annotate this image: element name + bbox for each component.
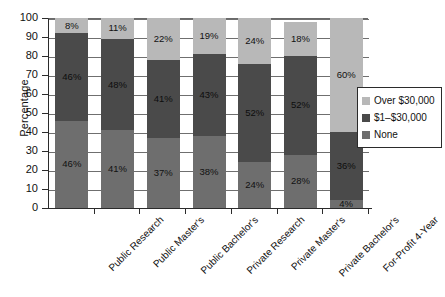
bar-segment-value-label: 37% [154, 168, 173, 178]
legend-swatch-icon [362, 97, 370, 105]
bar-private-bachelor-s[interactable]: 28%52%18% [284, 18, 317, 208]
plot-area: 46%46%8%41%48%11%37%41%22%38%43%19%24%52… [48, 18, 368, 208]
bar-segment-value-label: 24% [245, 36, 264, 46]
bar-segment[interactable]: 24% [238, 18, 271, 64]
stacked-bar-chart: Percentage 0102030405060708090100 46%46%… [0, 0, 445, 297]
chart-legend: Over $30,000$1–$30,000None [357, 87, 442, 148]
bar-segment[interactable]: 22% [147, 18, 180, 60]
x-axis-tick [185, 208, 186, 214]
x-axis-tick [139, 208, 140, 214]
bar-segment-value-label: 8% [65, 21, 79, 31]
bar-segment-value-label: 11% [108, 23, 126, 33]
bar-segment-value-label: 36% [337, 161, 356, 171]
bar-segment-value-label: 52% [291, 100, 310, 110]
bar-segment[interactable]: 18% [284, 22, 317, 56]
bar-segment-value-label: 22% [154, 34, 173, 44]
bar-segment[interactable]: 8% [55, 18, 88, 33]
y-axis-tick-label: 30 [8, 145, 38, 156]
y-axis-tick-label: 80 [8, 50, 38, 61]
bar-segment[interactable]: 41% [101, 130, 134, 208]
y-axis-tick-label: 100 [8, 12, 38, 23]
bar-segment-value-label: 19% [199, 31, 218, 41]
legend-label: $1–$30,000 [374, 112, 427, 123]
bar-segment-value-label: 41% [154, 94, 173, 104]
bar-segment-value-label: 48% [108, 80, 127, 90]
bar-segment[interactable]: 38% [193, 136, 226, 208]
x-axis-line [48, 208, 372, 209]
bar-segment-value-label: 46% [62, 159, 81, 169]
bar-segment[interactable]: 41% [147, 60, 180, 138]
bar-segment-value-label: 41% [108, 164, 127, 174]
x-axis-tick [231, 208, 232, 214]
x-axis-tick [94, 208, 95, 214]
bar-segment-value-label: 28% [291, 176, 310, 186]
bar-public-master-s[interactable]: 41%48%11% [101, 18, 134, 208]
bar-segment[interactable]: 4% [330, 200, 363, 208]
bar-segment[interactable]: 48% [101, 39, 134, 130]
bar-public-bachelor-s[interactable]: 37%41%22% [147, 18, 180, 208]
y-axis-tick-label: 90 [8, 31, 38, 42]
legend-label: Over $30,000 [374, 95, 435, 106]
bar-segment-value-label: 52% [245, 108, 264, 118]
x-axis-tick [277, 208, 278, 214]
y-axis-tick-label: 10 [8, 183, 38, 194]
bar-segment[interactable]: 37% [147, 138, 180, 208]
bar-segment[interactable]: 52% [284, 56, 317, 155]
y-axis-tick-label: 70 [8, 69, 38, 80]
bar-segment-value-label: 18% [291, 34, 310, 44]
legend-swatch-icon [362, 114, 370, 122]
y-axis-tick-label: 60 [8, 88, 38, 99]
legend-item[interactable]: Over $30,000 [362, 92, 438, 109]
y-axis-tick-label: 0 [8, 202, 38, 213]
bar-segment[interactable]: 52% [238, 64, 271, 163]
bar-segment[interactable]: 46% [55, 121, 88, 208]
bar-public-research[interactable]: 46%46%8% [55, 18, 88, 208]
bar-segment-value-label: 60% [337, 70, 356, 80]
legend-swatch-icon [362, 131, 370, 139]
bar-segment[interactable]: 11% [101, 18, 134, 39]
bar-segment-value-label: 43% [199, 90, 218, 100]
y-axis-tick-label: 40 [8, 126, 38, 137]
bar-segment-value-label: 24% [245, 180, 264, 190]
bar-segment[interactable]: 19% [193, 18, 226, 54]
y-axis-tick-label: 20 [8, 164, 38, 175]
legend-label: None [374, 129, 398, 140]
bar-private-master-s[interactable]: 24%52%24% [238, 18, 271, 208]
bar-segment[interactable]: 24% [238, 162, 271, 208]
legend-item[interactable]: $1–$30,000 [362, 109, 438, 126]
bar-segment-value-label: 38% [199, 167, 218, 177]
bar-segment[interactable]: 43% [193, 54, 226, 136]
bar-private-research[interactable]: 38%43%19% [193, 18, 226, 208]
bar-segment-value-label: 46% [62, 72, 81, 82]
bar-segment[interactable]: 46% [55, 33, 88, 120]
x-axis-tick [368, 208, 369, 214]
bar-segment[interactable]: 28% [284, 155, 317, 208]
x-axis-tick [322, 208, 323, 214]
y-axis-tick-label: 50 [8, 107, 38, 118]
legend-item[interactable]: None [362, 126, 438, 143]
